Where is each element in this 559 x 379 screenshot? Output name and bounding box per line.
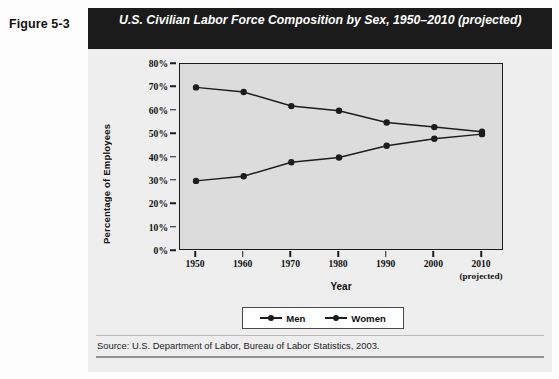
- x-axis-title: Year: [179, 281, 503, 292]
- legend-marker-icon: [325, 314, 347, 323]
- data-point-men-1950: [193, 84, 199, 90]
- data-point-men-2000: [431, 124, 437, 130]
- legend-marker-icon: [260, 314, 282, 323]
- legend-label: Women: [351, 313, 385, 324]
- page-title: U.S. Civilian Labor Force Composition by…: [119, 13, 543, 29]
- y-axis-tick: [170, 86, 176, 88]
- y-axis-tick-label: 0%: [154, 245, 168, 256]
- data-point-women-2000: [431, 136, 437, 142]
- data-point-men-1970: [288, 103, 294, 109]
- legend-item-women: Women: [325, 313, 385, 324]
- data-point-women-1970: [288, 159, 294, 165]
- y-axis-title: Percentage of Employees: [101, 119, 117, 249]
- figure-number-label: Figure 5-3: [9, 17, 70, 31]
- data-point-women-1980: [336, 154, 342, 160]
- source-divider: [96, 356, 544, 358]
- y-axis-tick-label: 40%: [149, 151, 168, 162]
- y-axis-tick: [170, 132, 176, 134]
- x-axis-tick-label: 2010(projected): [459, 258, 502, 281]
- x-axis-tick-label: 1990: [376, 258, 395, 269]
- source-divider-top: [96, 335, 544, 336]
- y-axis-tick: [170, 203, 176, 205]
- x-axis-tick: [385, 251, 387, 257]
- x-axis-tick: [242, 251, 244, 257]
- x-axis-tick: [194, 251, 196, 257]
- x-axis-tick: [480, 251, 482, 257]
- legend-label: Men: [286, 313, 305, 324]
- x-axis-tick-label: 1970: [281, 258, 300, 269]
- y-axis-tick-label: 70%: [149, 81, 168, 92]
- x-axis-tick-label: 1960: [233, 258, 252, 269]
- chart-legend: MenWomen: [242, 307, 404, 329]
- figure-title-bar: U.S. Civilian Labor Force Composition by…: [88, 8, 552, 49]
- series-lines: [180, 64, 504, 251]
- y-axis-tick-label: 50%: [149, 128, 168, 139]
- x-axis-tick-label: 1950: [185, 258, 204, 269]
- y-axis-tick: [170, 226, 176, 228]
- y-axis-tick-label: 60%: [149, 104, 168, 115]
- data-point-men-1960: [240, 89, 246, 95]
- y-axis-tick-label: 10%: [149, 221, 168, 232]
- x-axis-labels: 1950196019701980199020002010(projected): [179, 252, 503, 302]
- y-axis-tick: [170, 249, 176, 251]
- x-axis-tick: [337, 251, 339, 257]
- x-axis-tick-label: 2000: [424, 258, 443, 269]
- data-point-women-1990: [383, 143, 389, 149]
- y-axis-tick: [170, 156, 176, 158]
- chart-area: Percentage of Employees 0%10%20%30%40%50…: [88, 49, 552, 309]
- y-axis-tick-label: 20%: [149, 198, 168, 209]
- y-axis-tick: [170, 109, 176, 111]
- figure-card: Percentage of Employees 0%10%20%30%40%50…: [88, 49, 552, 372]
- legend-item-men: Men: [260, 313, 305, 324]
- y-axis-tick: [170, 62, 176, 64]
- y-axis-labels: 0%10%20%30%40%50%60%70%80%: [118, 49, 176, 264]
- figure-container: Figure 5-3 U.S. Civilian Labor Force Com…: [0, 0, 559, 379]
- x-axis-tick-sublabel: (projected): [459, 271, 502, 281]
- x-axis-tick: [433, 251, 435, 257]
- source-note: Source: U.S. Department of Labor, Bureau…: [97, 340, 379, 351]
- data-point-women-1960: [240, 173, 246, 179]
- data-point-women-2010: [479, 131, 485, 137]
- x-axis-tick: [290, 251, 292, 257]
- data-point-women-1950: [193, 178, 199, 184]
- y-axis-tick-label: 30%: [149, 174, 168, 185]
- data-point-men-1980: [336, 108, 342, 114]
- x-axis-tick-label: 1980: [328, 258, 347, 269]
- y-axis-tick-label: 80%: [149, 58, 168, 69]
- plot-area: [179, 63, 503, 250]
- y-axis-tick: [170, 179, 176, 181]
- data-point-men-1990: [383, 119, 389, 125]
